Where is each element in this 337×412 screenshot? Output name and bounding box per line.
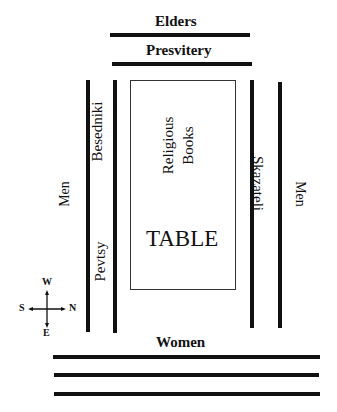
compass: W S N E — [18, 280, 78, 340]
religious-label: Religious — [160, 117, 177, 175]
compass-east-label: E — [43, 327, 50, 338]
men-left-label: Men — [57, 181, 73, 207]
women-row-line-2 — [54, 373, 319, 377]
compass-south-label: S — [19, 302, 25, 313]
pevtsy-label: Pevtsy — [92, 241, 109, 281]
table-rectangle — [130, 80, 236, 290]
right-outer-line — [278, 82, 282, 328]
books-label: Books — [180, 126, 197, 164]
besedniki-label: Besedniki — [89, 102, 106, 162]
presvitery-label: Presvitery — [146, 42, 212, 59]
presvitery-row-line — [112, 62, 252, 66]
women-label: Women — [156, 334, 205, 351]
women-row-line-1 — [53, 355, 320, 359]
compass-west-label: W — [42, 276, 52, 287]
compass-north-label: N — [69, 302, 76, 313]
men-right-label: Men — [292, 181, 308, 207]
elders-label: Elders — [155, 13, 197, 30]
left-inner-line — [113, 80, 117, 333]
women-row-line-3 — [54, 392, 320, 396]
elders-row-line — [110, 33, 250, 37]
skazateli-label: Skazateli — [249, 156, 266, 211]
table-label: TABLE — [146, 226, 218, 252]
